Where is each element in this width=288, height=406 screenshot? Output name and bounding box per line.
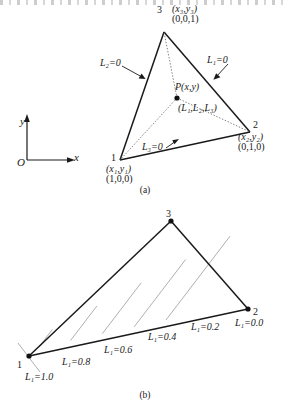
y-axis-arrowhead <box>24 114 30 122</box>
vertex-1-number: 1 <box>111 153 116 164</box>
panel-b-caption: (b) <box>125 390 165 400</box>
edge-label-l2: L₂=0 <box>100 58 121 69</box>
vertex-2-marker-b <box>245 306 250 311</box>
contour-label-0_0: L₁=0.0 <box>235 318 263 329</box>
triangle-edges-b <box>29 221 248 356</box>
contour-label-0_8: L₁=0.8 <box>62 357 90 368</box>
interior-dotted-lines <box>120 32 250 160</box>
edge-b-1-2 <box>29 309 248 356</box>
point-p-marker <box>174 95 179 100</box>
figure-area-coordinates: y x O 3 (x₃,y₃) (0,0,1) 2 (x₂,y₂) (0,1,0… <box>0 0 288 406</box>
y-axis-label: y <box>20 116 25 128</box>
contour-label-0_4: L₁=0.4 <box>148 332 176 343</box>
leader-l3-arrowhead <box>172 139 179 144</box>
vertex-3-number-b: 3 <box>166 209 171 220</box>
vertex-2-number-b: 2 <box>253 307 258 318</box>
panel-a-caption: (a) <box>125 185 165 195</box>
contour-label-0_6: L₁=0.6 <box>104 345 132 356</box>
vertex-1-number-b: 1 <box>17 360 22 371</box>
vertex-1-marker-b <box>26 353 31 358</box>
origin-label: O <box>17 157 25 169</box>
leader-l2 <box>122 66 142 77</box>
triangle-edges <box>120 32 250 160</box>
leader-l1-arrowhead <box>213 73 220 80</box>
point-p-area-coords: (L₁,L₂,L₃) <box>178 103 217 114</box>
vertex-3-number: 3 <box>157 5 162 16</box>
vertex-2-number: 2 <box>253 120 258 131</box>
contour-line-0_6 <box>71 306 97 340</box>
edge-label-l3: L₃=0 <box>142 142 163 153</box>
contour-line-0_4 <box>102 283 141 334</box>
contour-label-0_2: L₁=0.2 <box>191 322 219 333</box>
contour-line-0_2 <box>134 260 185 327</box>
vertex-3-area-coords: (0,0,1) <box>172 14 199 25</box>
panel-a-graphic <box>0 0 288 200</box>
edge-1-2 <box>120 132 250 160</box>
edge-b-3-2 <box>171 221 248 309</box>
x-axis-label: x <box>74 152 79 164</box>
coordinate-axes <box>24 114 75 163</box>
point-p-label: P(x,y) <box>175 82 199 93</box>
vertex-1-area-coords: (1,0,0) <box>106 174 133 185</box>
vertex-2-area-coords: (0,1,0) <box>238 142 265 153</box>
contour-label-1_0: L₁=1.0 <box>25 372 53 383</box>
edge-label-l1: L₁=0 <box>207 55 228 66</box>
